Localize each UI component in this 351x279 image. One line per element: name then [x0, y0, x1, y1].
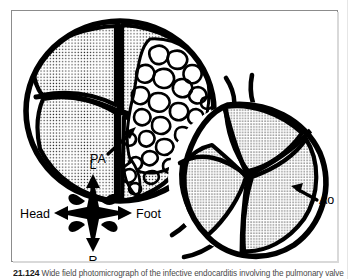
compass-label-right: Foot — [136, 207, 162, 221]
figure-panel: PA Ao L R Head Foot — [11, 10, 338, 262]
figure-number: 21.124 — [13, 269, 39, 278]
pv-commissure-inferior — [118, 111, 119, 201]
valve-illustration: PA Ao L R Head Foot — [12, 11, 339, 263]
figure-caption: 21.124 Wide field photomicrograph of the… — [13, 269, 347, 279]
compass-label-top: L — [90, 158, 97, 172]
aortic-valve-cusps — [168, 102, 328, 255]
pv-commissure-superior — [118, 25, 119, 109]
compass-arrowhead-right — [118, 206, 132, 220]
page-edge-rule — [347, 0, 348, 279]
figure-caption-text: Wide field photomicrograph of the infect… — [42, 269, 344, 278]
compass-flourish-lower-right — [101, 221, 118, 232]
compass-arrowhead-down — [86, 238, 100, 252]
pv-cusp-lower — [38, 97, 116, 201]
compass-flourish-lower-left — [68, 221, 85, 232]
compass-label-left: Head — [20, 207, 50, 221]
ao-label: Ao — [319, 193, 334, 207]
compass-label-bottom: R — [88, 254, 97, 263]
compass-arrowhead-left — [54, 206, 68, 220]
